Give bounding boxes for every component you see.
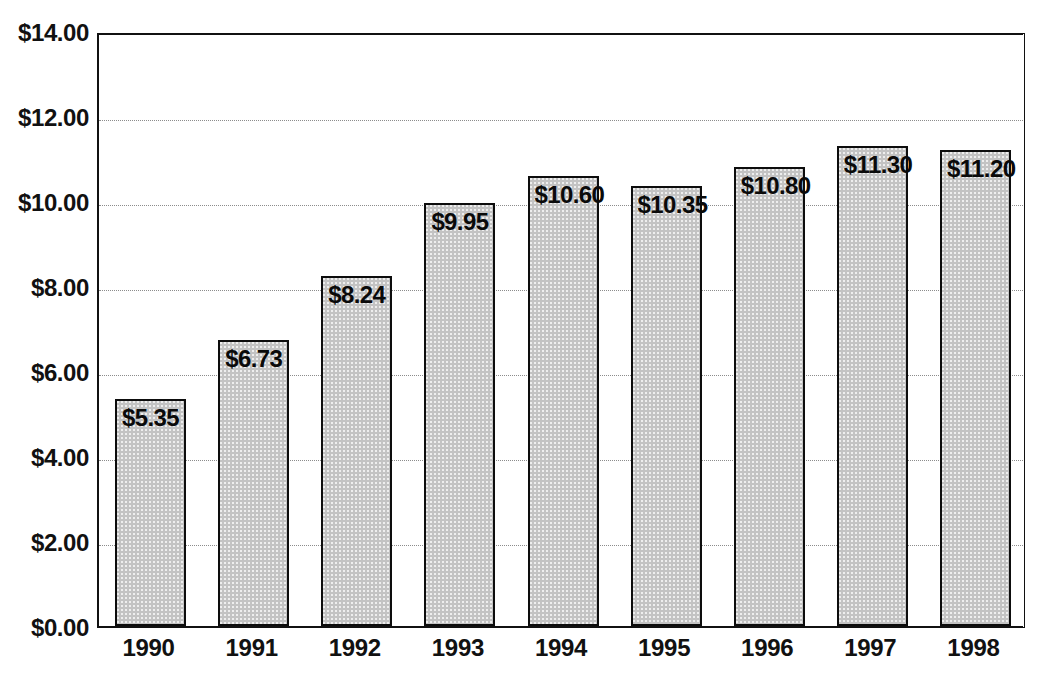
bar: $8.24 bbox=[321, 276, 392, 626]
bar-value-label: $10.60 bbox=[535, 182, 605, 208]
x-axis-tick-label: 1994 bbox=[509, 634, 612, 662]
y-axis-tick-label: $12.00 bbox=[0, 104, 89, 132]
y-axis-tick-label: $10.00 bbox=[0, 189, 89, 217]
y-axis-tick-label: $14.00 bbox=[0, 19, 89, 47]
y-axis-tick-label: $2.00 bbox=[0, 529, 89, 557]
x-axis-tick-label: 1995 bbox=[613, 634, 716, 662]
bar: $6.73 bbox=[218, 340, 289, 626]
x-axis-tick-label: 1990 bbox=[97, 634, 200, 662]
y-axis-tick-label: $4.00 bbox=[0, 444, 89, 472]
bar-value-label: $11.30 bbox=[844, 152, 912, 178]
bar-value-label: $11.20 bbox=[947, 156, 1015, 182]
bar: $10.60 bbox=[528, 176, 599, 627]
bar-value-label: $10.35 bbox=[638, 192, 708, 218]
bar-value-label: $6.73 bbox=[225, 346, 282, 372]
bar: $10.35 bbox=[631, 186, 702, 626]
x-axis-tick-label: 1993 bbox=[406, 634, 509, 662]
bar-value-label: $10.80 bbox=[741, 173, 811, 199]
bar: $10.80 bbox=[734, 167, 805, 626]
x-axis-tick-label: 1992 bbox=[303, 634, 406, 662]
bar: $11.30 bbox=[837, 146, 908, 626]
x-axis-tick-label: 1996 bbox=[716, 634, 819, 662]
bar: $5.35 bbox=[115, 399, 186, 626]
y-axis-tick-label: $6.00 bbox=[0, 359, 89, 387]
x-axis: 199019911992199319941995199619971998 bbox=[97, 634, 1025, 674]
y-axis-tick-label: $0.00 bbox=[0, 614, 89, 642]
bars-layer: $5.35$6.73$8.24$9.95$10.60$10.35$10.80$1… bbox=[99, 35, 1023, 626]
bar-value-label: $9.95 bbox=[431, 209, 488, 235]
bar-chart: $0.00$2.00$4.00$6.00$8.00$10.00$12.00$14… bbox=[0, 0, 1043, 674]
bar: $11.20 bbox=[940, 150, 1011, 626]
y-axis-tick-label: $8.00 bbox=[0, 274, 89, 302]
x-axis-tick-label: 1998 bbox=[922, 634, 1025, 662]
plot-area: $5.35$6.73$8.24$9.95$10.60$10.35$10.80$1… bbox=[97, 33, 1025, 628]
x-axis-tick-label: 1991 bbox=[200, 634, 303, 662]
bar-value-label: $8.24 bbox=[328, 282, 385, 308]
chart-title bbox=[0, 0, 1043, 1]
bar: $9.95 bbox=[424, 203, 495, 626]
bar-value-label: $5.35 bbox=[122, 405, 179, 431]
x-axis-tick-label: 1997 bbox=[819, 634, 922, 662]
